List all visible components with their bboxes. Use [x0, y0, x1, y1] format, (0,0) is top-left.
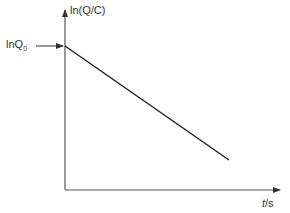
x-axis-label: t/s [262, 197, 274, 209]
graph-canvas [0, 0, 290, 213]
data-line [65, 46, 229, 160]
intercept-main: lnQ [6, 38, 23, 50]
x-axis-unit: /s [265, 197, 274, 209]
intercept-sub: 0 [23, 45, 27, 52]
y-axis-label: ln(Q/C) [70, 4, 105, 16]
intercept-label: lnQ0 [6, 38, 27, 52]
